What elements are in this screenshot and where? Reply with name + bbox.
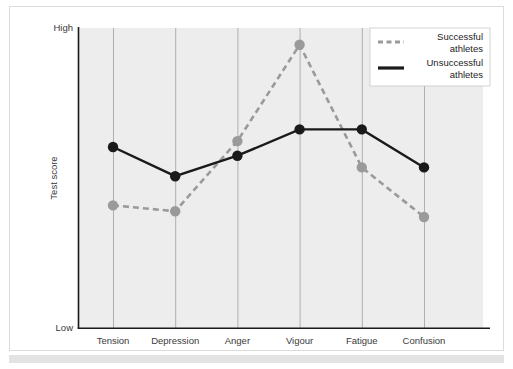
datapoint-successful-athletes-tension — [108, 200, 118, 210]
y-axis-low-label: Low — [56, 322, 74, 333]
chart-legend: Successful athletes Unsuccessful athlete… — [370, 28, 490, 86]
chart-figure: High Low Test score TensionDepressionAng… — [0, 0, 513, 369]
datapoint-unsuccessful-athletes-depression — [170, 171, 180, 181]
x-axis-label-confusion: Confusion — [403, 335, 446, 346]
datapoint-successful-athletes-confusion — [419, 212, 429, 222]
x-axis-label-vigour: Vigour — [286, 335, 313, 346]
x-axis-label-fatigue: Fatigue — [346, 335, 378, 346]
legend-item-0-label-line2: athletes — [450, 43, 484, 54]
datapoint-successful-athletes-vigour — [294, 40, 304, 50]
legend-item-1-label-line1: Unsuccessful — [427, 57, 484, 68]
datapoint-successful-athletes-fatigue — [357, 162, 367, 172]
x-axis-label-tension: Tension — [97, 335, 130, 346]
plot-wrapper: High Low Test score TensionDepressionAng… — [0, 0, 513, 369]
datapoint-successful-athletes-depression — [170, 206, 180, 216]
y-axis-title: Test score — [48, 156, 59, 199]
x-axis-label-anger: Anger — [225, 335, 250, 346]
datapoint-unsuccessful-athletes-fatigue — [357, 124, 367, 134]
legend-item-0-label-line1: Successful — [437, 31, 483, 42]
datapoint-unsuccessful-athletes-anger — [232, 151, 242, 161]
datapoint-successful-athletes-anger — [232, 136, 242, 146]
y-axis-high-label: High — [53, 22, 73, 33]
x-axis-category-labels: TensionDepressionAngerVigourFatigueConfu… — [97, 335, 446, 346]
datapoint-unsuccessful-athletes-vigour — [294, 124, 304, 134]
datapoint-unsuccessful-athletes-confusion — [419, 162, 429, 172]
x-axis-label-depression: Depression — [151, 335, 199, 346]
legend-item-1-label-line2: athletes — [450, 69, 484, 80]
datapoint-unsuccessful-athletes-tension — [108, 142, 118, 152]
line-chart-svg: High Low Test score TensionDepressionAng… — [0, 0, 513, 369]
